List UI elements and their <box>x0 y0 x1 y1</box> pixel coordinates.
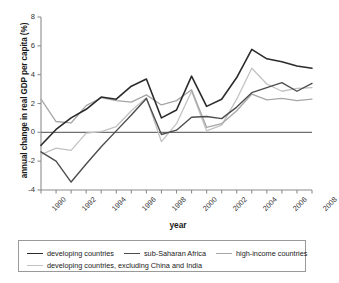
legend-item[interactable]: developing countries <box>27 249 114 258</box>
chart-legend: developing countriessub-Saharan Africahi… <box>18 240 306 272</box>
legend-color-swatch <box>27 253 43 254</box>
legend-row: developing countries, excluding China an… <box>27 259 212 271</box>
legend-label: developing countries <box>47 249 114 258</box>
x-axis-tick-label: 2008 <box>321 195 339 213</box>
series-line <box>41 49 312 145</box>
legend-item[interactable]: developing countries, excluding China an… <box>27 261 202 270</box>
legend-color-swatch <box>124 253 140 254</box>
legend-item[interactable]: high-income countries <box>216 249 307 258</box>
legend-label: high-income countries <box>236 249 307 258</box>
legend-color-swatch <box>27 265 43 266</box>
legend-item[interactable]: sub-Saharan Africa <box>124 249 206 258</box>
legend-label: sub-Saharan Africa <box>144 249 206 258</box>
legend-row: developing countriessub-Saharan Africahi… <box>27 247 317 259</box>
legend-label: developing countries, excluding China an… <box>47 261 202 270</box>
legend-color-swatch <box>216 253 232 254</box>
